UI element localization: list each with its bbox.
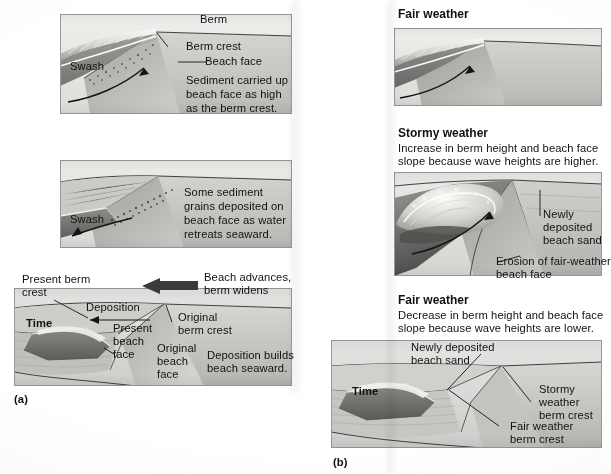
label-newly-deposited-line3: beach sand: [543, 234, 602, 247]
label-stormy-berm-crest-line2: weather: [539, 396, 580, 409]
label-time-b3: Time: [352, 385, 378, 398]
label-beach-advances-line1: Beach advances,: [204, 271, 291, 284]
label-newly-deposited-b3-line1: Newly deposited: [411, 341, 495, 354]
label-present-beach-face-line1: Present: [113, 322, 152, 335]
label-fair-berm-crest-line1: Fair weather: [510, 420, 573, 433]
illustration-fair-weather-profile: [394, 28, 602, 106]
stormy-subtext-line2: slope because wave heights are higher.: [398, 155, 598, 168]
label-present-beach-face-line2: beach: [113, 335, 144, 348]
label-present-berm-crest-line2: crest: [22, 286, 47, 299]
label-berm-crest: Berm crest: [186, 40, 241, 53]
label-beach-advances-line2: berm widens: [204, 284, 269, 297]
part-b-label: (b): [333, 456, 348, 469]
fair-subtext-line2: slope because wave heights are lower.: [398, 322, 594, 335]
label-newly-deposited-line1: Newly: [543, 208, 574, 221]
note-a2-line2: grains deposited on: [184, 200, 284, 213]
label-newly-deposited-b3-line2: beach sand: [411, 354, 470, 367]
note-a2-line4: retreats seaward.: [184, 228, 272, 241]
heading-stormy-weather: Stormy weather: [398, 126, 488, 140]
label-original-berm-crest-line2: berm crest: [178, 324, 232, 337]
label-erosion-line2: beach face: [496, 268, 552, 281]
label-original-beach-face-line2: beach: [157, 355, 188, 368]
label-original-beach-face-line3: face: [157, 368, 179, 381]
label-present-beach-face-line3: face: [113, 348, 135, 361]
beach-profile-b1-svg: [394, 28, 602, 106]
note-a1-line1: Sediment carried up: [186, 74, 288, 87]
label-deposition-builds-line1: Deposition builds: [207, 349, 294, 362]
label-original-beach-face-line1: Original: [157, 342, 196, 355]
label-deposition-builds-line2: beach seaward.: [207, 362, 287, 375]
note-a1-line3: as the berm crest.: [186, 102, 277, 115]
note-a1-line2: beach face as high: [186, 88, 282, 101]
scan-shadow-right: [388, 0, 393, 474]
label-newly-deposited-line2: deposited: [543, 221, 592, 234]
label-time-a3: Time: [26, 317, 52, 330]
heading-fair-weather-b1: Fair weather: [398, 7, 469, 21]
label-swash-a1: Swash: [70, 60, 104, 73]
part-a-label: (a): [14, 393, 28, 406]
label-swash-a2: Swash: [70, 213, 104, 226]
label-berm: Berm: [200, 13, 227, 26]
beach-advances-arrow: [140, 278, 198, 294]
stormy-subtext-line1: Increase in berm height and beach face: [398, 142, 598, 155]
heading-fair-weather-b3: Fair weather: [398, 293, 469, 307]
note-a2-line3: beach face as water: [184, 214, 286, 227]
label-deposition: Deposition: [86, 301, 140, 314]
label-fair-berm-crest-line2: berm crest: [510, 433, 564, 446]
note-a2-line1: Some sediment: [184, 186, 263, 199]
label-erosion-line1: Erosion of fair-weather: [496, 255, 611, 268]
scan-shadow-left: [292, 0, 298, 392]
label-beach-face: Beach face: [205, 55, 262, 68]
label-present-berm-crest-line1: Present berm: [22, 273, 90, 286]
label-stormy-berm-crest-line1: Stormy: [539, 383, 575, 396]
fair-subtext-line1: Decrease in berm height and beach face: [398, 309, 603, 322]
label-original-berm-crest-line1: Original: [178, 311, 217, 324]
